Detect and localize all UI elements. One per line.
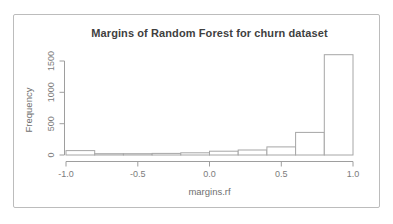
x-tick-label: 0.5 xyxy=(275,169,288,179)
y-tick-label: 0 xyxy=(46,152,56,157)
histogram-bar xyxy=(267,147,296,155)
histogram-bar xyxy=(324,55,353,155)
histogram-plot: 050010001500-1.0-0.50.00.51.0 xyxy=(0,0,393,224)
x-tick-label: -1.0 xyxy=(58,169,74,179)
histogram-bar xyxy=(66,151,95,155)
x-tick-label: -0.5 xyxy=(130,169,146,179)
histogram-bar xyxy=(181,153,210,155)
y-tick-label: 1000 xyxy=(46,82,56,102)
histogram-bar xyxy=(123,154,152,155)
histogram-bar xyxy=(210,151,239,155)
y-tick-label: 500 xyxy=(46,116,56,131)
histogram-bar xyxy=(296,132,325,155)
y-tick-label: 1500 xyxy=(46,51,56,71)
histogram-bar xyxy=(152,153,181,155)
page: Margins of Random Forest for churn datas… xyxy=(0,0,393,224)
x-tick-label: 0.0 xyxy=(203,169,216,179)
x-tick-label: 1.0 xyxy=(347,169,360,179)
histogram-bar xyxy=(95,154,124,155)
histogram-bar xyxy=(238,150,267,155)
